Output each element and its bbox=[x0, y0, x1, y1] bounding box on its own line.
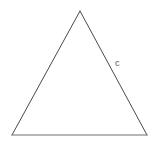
side-label-c: c bbox=[115, 59, 120, 68]
triangle-right-side bbox=[80, 11, 147, 135]
diagram-canvas: c bbox=[0, 0, 160, 144]
triangle-left-side bbox=[12, 11, 80, 135]
triangle-figure bbox=[0, 0, 160, 144]
